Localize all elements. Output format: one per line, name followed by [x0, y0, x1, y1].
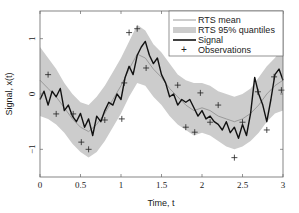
- x-tick-label: 2: [200, 180, 205, 190]
- x-tick-label: 0: [38, 180, 43, 190]
- x-tick-label: 3: [281, 180, 286, 190]
- legend: RTS mean RTS 95% quantiles Signal + Obse…: [169, 11, 283, 56]
- legend-observation-marker-icon: +: [181, 44, 187, 55]
- x-tick-label: 1.5: [156, 180, 168, 190]
- y-tick-label: 0: [27, 91, 37, 96]
- x-axis-label: Time, t: [147, 198, 175, 208]
- observation-marker: [119, 116, 125, 122]
- legend-signal-label: Signal: [198, 35, 223, 45]
- observation-marker: [231, 155, 237, 161]
- y-tick-label: 1: [27, 36, 37, 41]
- legend-band-label: RTS 95% quantiles: [198, 25, 275, 35]
- observation-marker: [126, 30, 132, 36]
- observation-marker: [264, 127, 270, 133]
- y-tick-label: −1: [27, 145, 37, 155]
- x-tick-label: 2.5: [237, 180, 249, 190]
- legend-band-swatch: [173, 27, 196, 33]
- x-tick-label: 0.5: [75, 180, 87, 190]
- legend-observations-label: Observations: [198, 45, 252, 55]
- chart: 00.511.522.53 10−1 Time, t Signal, x(t) …: [0, 0, 299, 213]
- y-axis-label: Signal, x(t): [4, 72, 14, 115]
- x-tick-label: 1: [119, 180, 124, 190]
- legend-mean-label: RTS mean: [198, 15, 241, 25]
